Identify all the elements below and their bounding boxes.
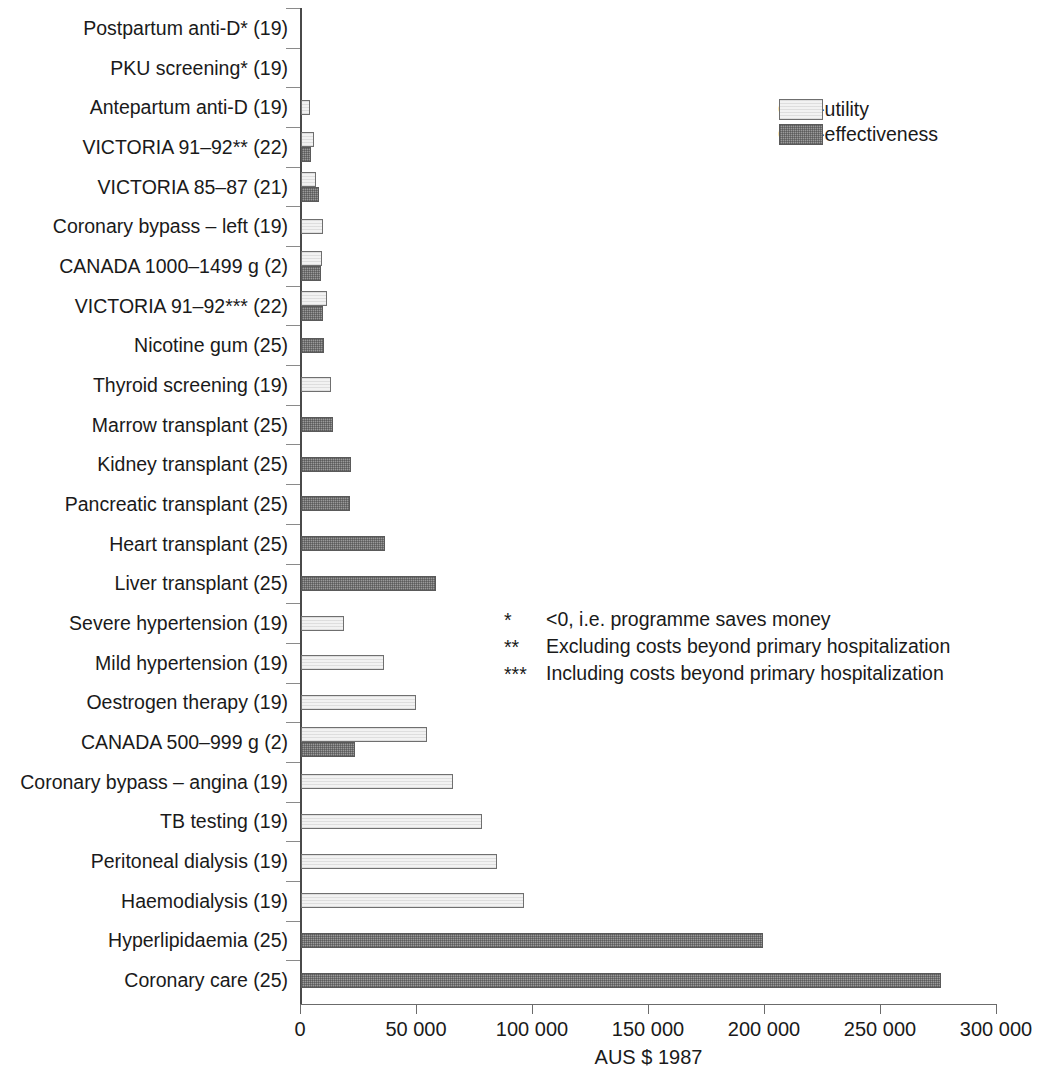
category-label: CANADA 500–999 g (2) [0, 732, 288, 752]
bar-cost-effectiveness [301, 576, 436, 591]
footnotes: *<0, i.e. programme saves money**Excludi… [504, 608, 950, 689]
chart-row [300, 524, 996, 564]
bar-cost-utility [301, 100, 310, 115]
category-tick [286, 87, 300, 88]
footnote-marker: * [504, 608, 546, 630]
category-tick [286, 246, 300, 247]
legend: Cost-utility Cost-effectiveness [778, 97, 938, 147]
bar-cost-utility [301, 655, 384, 670]
footnote-row: *<0, i.e. programme saves money [504, 608, 950, 635]
footnote-marker: *** [504, 662, 546, 684]
category-label: VICTORIA 91–92** (22) [0, 137, 288, 157]
bar-cost-utility [301, 893, 524, 908]
chart-row [300, 921, 996, 961]
category-label: Pancreatic transplant (25) [0, 494, 288, 514]
bar-cost-effectiveness [301, 457, 351, 472]
legend-swatch-cost-effectiveness [779, 124, 823, 145]
category-tick [286, 167, 300, 168]
plot-area [300, 8, 996, 1000]
legend-swatch-cost-utility [779, 99, 823, 120]
category-label: Haemodialysis (19) [0, 891, 288, 911]
x-axis-tick [416, 1004, 417, 1014]
x-axis-tick [764, 1004, 765, 1014]
category-label: CANADA 1000–1499 g (2) [0, 256, 288, 276]
x-axis-tick-label: 0 [294, 1017, 305, 1041]
chart-row [300, 960, 996, 1000]
category-tick [286, 206, 300, 207]
chart-row [300, 484, 996, 524]
chart-row [300, 206, 996, 246]
chart-row [300, 48, 996, 88]
legend-item-cost-effectiveness: Cost-effectiveness [778, 122, 938, 147]
chart-row [300, 286, 996, 326]
bar-cost-utility [301, 814, 482, 829]
x-axis-tick [648, 1004, 649, 1014]
category-axis-labels: Postpartum anti-D* (19)PKU screening* (1… [0, 8, 288, 1000]
bar-cost-effectiveness [301, 266, 321, 281]
category-label: Coronary bypass – left (19) [0, 216, 288, 236]
category-tick [286, 8, 300, 9]
category-tick [286, 881, 300, 882]
bar-cost-utility [301, 695, 416, 710]
category-tick [286, 802, 300, 803]
category-tick [286, 405, 300, 406]
footnote-row: **Excluding costs beyond primary hospita… [504, 635, 950, 662]
category-tick [286, 960, 300, 961]
category-label: TB testing (19) [0, 811, 288, 831]
footnote-marker: ** [504, 635, 546, 657]
category-label: Heart transplant (25) [0, 534, 288, 554]
footnote-text: Including costs beyond primary hospitali… [546, 662, 944, 685]
x-axis-tick [880, 1004, 881, 1014]
chart-row [300, 325, 996, 365]
chart-row [300, 405, 996, 445]
chart-row [300, 8, 996, 48]
x-axis-tick [300, 1004, 301, 1014]
bar-cost-utility [301, 616, 344, 631]
footnote-text: <0, i.e. programme saves money [546, 608, 831, 631]
chart-row [300, 722, 996, 762]
bar-cost-effectiveness [301, 338, 324, 353]
chart-row [300, 246, 996, 286]
bar-cost-effectiveness [301, 536, 385, 551]
bar-cost-effectiveness [301, 417, 333, 432]
category-tick [286, 48, 300, 49]
chart-figure: Postpartum anti-D* (19)PKU screening* (1… [0, 0, 1037, 1074]
category-label: Peritoneal dialysis (19) [0, 851, 288, 871]
category-label: PKU screening* (19) [0, 58, 288, 78]
x-axis-tick-label: 200 000 [728, 1017, 800, 1041]
x-axis-tick-label: 300 000 [960, 1017, 1032, 1041]
bar-cost-utility [301, 291, 327, 306]
category-label: Hyperlipidaemia (25) [0, 930, 288, 950]
chart-row [300, 802, 996, 842]
category-tick [286, 683, 300, 684]
bar-cost-utility [301, 377, 331, 392]
x-axis-tick-label: 250 000 [844, 1017, 916, 1041]
bar-cost-utility [301, 774, 453, 789]
x-axis-tick [532, 1004, 533, 1014]
category-label: VICTORIA 85–87 (21) [0, 177, 288, 197]
bar-cost-utility [301, 251, 322, 266]
category-tick [286, 325, 300, 326]
category-label: Coronary care (25) [0, 970, 288, 990]
category-label: Nicotine gum (25) [0, 335, 288, 355]
x-axis-tick-label: 150 000 [612, 1017, 684, 1041]
x-axis-title: AUS $ 1987 [595, 1046, 703, 1068]
x-axis-tick [996, 1004, 997, 1014]
bar-cost-effectiveness [301, 933, 763, 948]
category-label: Kidney transplant (25) [0, 454, 288, 474]
category-label: Coronary bypass – angina (19) [0, 772, 288, 792]
category-label: Oestrogen therapy (19) [0, 692, 288, 712]
bar-cost-utility [301, 132, 314, 147]
x-axis-tick-label: 50 000 [385, 1017, 446, 1041]
category-tick [286, 722, 300, 723]
bar-cost-effectiveness [301, 147, 311, 162]
category-tick [286, 365, 300, 366]
legend-item-cost-utility: Cost-utility [778, 97, 938, 122]
category-label: Marrow transplant (25) [0, 415, 288, 435]
bar-cost-effectiveness [301, 306, 323, 321]
x-axis-tick-label: 100 000 [496, 1017, 568, 1041]
category-tick [286, 524, 300, 525]
x-axis-title-wrap: AUS $ 1987 [300, 1046, 997, 1069]
bar-cost-utility [301, 854, 497, 869]
category-tick [286, 564, 300, 565]
